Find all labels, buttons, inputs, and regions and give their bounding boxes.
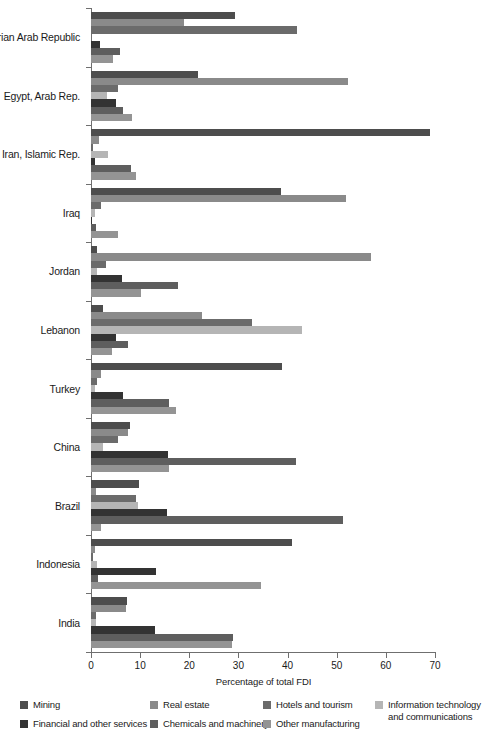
bar [91,334,116,341]
x-axis-tick-label: 70 [429,660,440,672]
category-label: Lebanon [41,325,80,336]
bar [91,619,96,626]
bar [91,524,101,531]
bar-row [91,34,435,41]
bar-group [91,480,435,531]
bar [91,539,292,546]
bar-row [91,136,435,143]
category-label: Egypt, Arab Rep. [4,90,80,101]
legend-item[interactable]: Hotels and tourism [263,699,353,711]
bar [91,612,96,619]
bar [91,12,235,19]
legend-item[interactable]: Financial and other services [20,718,147,730]
x-axis-tick-label: 50 [331,660,342,672]
legend-swatch-icon [263,720,271,728]
bar-row [91,129,435,136]
bar [91,516,343,523]
category-label: Iran, Islamic Rep. [2,149,80,160]
bar-row [91,443,435,450]
y-axis-tick [86,8,91,9]
bar [91,488,96,495]
y-axis-tick [86,535,91,536]
legend-item[interactable]: Mining [20,699,60,711]
bar [91,553,93,560]
bar-row [91,605,435,612]
bar-row [91,458,435,465]
bar-row [91,78,435,85]
bar-row [91,399,435,406]
bar-row [91,509,435,516]
x-axis-tick [337,653,338,658]
y-axis-tick [86,67,91,68]
bar [91,626,155,633]
bar-row [91,305,435,312]
bar-row [91,268,435,275]
category-label: Turkey [50,383,81,394]
bar [91,634,233,641]
legend-label: Hotels and tourism [276,699,353,710]
bar [91,261,106,268]
bar [91,385,95,392]
bar [91,568,156,575]
bar [91,509,167,516]
y-axis-tick [86,242,91,243]
x-axis-line [91,652,436,653]
bar-row [91,597,435,604]
category-label: Jordan [49,266,80,277]
bar-row [91,634,435,641]
bar-group [91,71,435,122]
bar-row [91,341,435,348]
bar-row [91,224,435,231]
bar-row [91,561,435,568]
legend-label: Financial and other services [33,718,147,729]
legend-item[interactable]: Other manufacturing [263,718,360,730]
legend-item[interactable]: Information technology and communication… [375,699,486,722]
bar [91,26,297,33]
bar [91,458,296,465]
bar-row [91,19,435,26]
legend-label: Information technology and communication… [388,699,486,722]
bar-row [91,92,435,99]
x-axis-tick-label: 40 [282,660,293,672]
category-label: Indonesia [36,559,80,570]
legend-swatch-icon [20,720,28,728]
bar [91,451,168,458]
bar [91,341,128,348]
x-axis-tick-label: 60 [380,660,391,672]
legend-item[interactable]: Chemicals and machinery [150,718,269,730]
bar-row [91,488,435,495]
bar [91,641,232,648]
bar-row [91,188,435,195]
bar [91,399,169,406]
bar [91,158,95,165]
chart-legend: MiningReal estateHotels and tourismInfor… [20,699,450,743]
bar [91,55,113,62]
legend-label: Mining [33,699,60,710]
bar [91,326,302,333]
bar-row [91,48,435,55]
bar-row [91,370,435,377]
bar [91,275,122,282]
bar [91,289,141,296]
bar [91,319,252,326]
bar-row [91,348,435,355]
bar [91,312,202,319]
legend-swatch-icon [263,701,271,709]
bar-row [91,612,435,619]
bar-row [91,158,435,165]
bar-row [91,619,435,626]
bar-group [91,363,435,414]
bar [91,224,96,231]
bar [91,363,282,370]
legend-item[interactable]: Real estate [150,699,209,711]
category-label: Brazil [55,500,80,511]
bar-row [91,641,435,648]
x-axis-tick [91,653,92,658]
bar [91,253,371,260]
bar-row [91,407,435,414]
bar-row [91,195,435,202]
bar [91,582,261,589]
bar [91,144,93,151]
x-axis-tick [189,653,190,658]
bar-row [91,165,435,172]
